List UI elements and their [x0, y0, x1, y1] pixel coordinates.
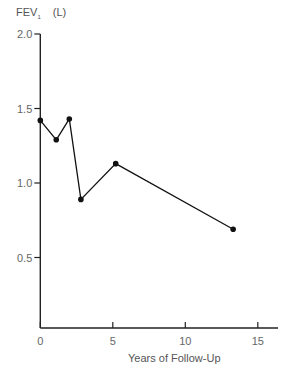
ticks: 0.51.01.52.0051015: [17, 28, 264, 347]
x-axis-label: Years of Follow-Up: [128, 352, 221, 364]
line-chart: 0.51.01.52.0051015: [0, 0, 287, 372]
y-tick-label: 2.0: [17, 28, 32, 40]
data-series: [38, 116, 236, 232]
x-tick-label: 5: [110, 335, 116, 347]
data-point-marker: [230, 226, 236, 232]
fev1-line: [40, 119, 233, 229]
data-point-marker: [67, 116, 73, 122]
y-tick-label: 1.5: [17, 103, 32, 115]
x-tick-label: 0: [37, 335, 43, 347]
data-point-marker: [113, 161, 119, 167]
axes: [40, 34, 278, 328]
data-point-marker: [38, 118, 44, 124]
x-tick-label: 10: [179, 335, 191, 347]
data-point-marker: [78, 197, 84, 203]
y-tick-label: 1.0: [17, 177, 32, 189]
x-tick-label: 15: [252, 335, 264, 347]
data-point-marker: [53, 137, 59, 143]
y-tick-label: 0.5: [17, 252, 32, 264]
